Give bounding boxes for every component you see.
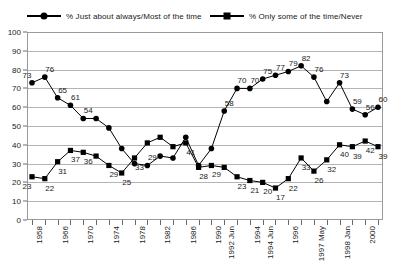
circle-marker-icon	[362, 112, 368, 118]
circle-marker-icon	[157, 153, 163, 159]
square-marker-icon	[350, 144, 355, 149]
x-axis-tick	[186, 220, 187, 225]
circle-marker-icon	[311, 74, 317, 80]
x-axis-tick	[250, 220, 251, 225]
x-axis-tick	[340, 220, 341, 225]
chart-legend: % Just about always/Most of the time % O…	[0, 8, 395, 24]
x-axis-tick-label: 1982	[163, 226, 172, 244]
y-axis-tick-label: 60	[12, 103, 21, 112]
square-marker-icon	[247, 178, 252, 183]
x-axis-tick-label: 1966	[61, 226, 70, 244]
square-marker-icon	[299, 155, 304, 160]
y-axis-tick-label: 100	[8, 28, 21, 37]
x-axis-tick	[365, 220, 366, 225]
square-marker-icon	[170, 144, 175, 149]
x-axis-tick	[83, 220, 84, 225]
square-marker-icon	[93, 153, 98, 158]
x-axis-labels: 195819661970197419781982198619901992 Jun…	[27, 226, 383, 280]
chart-root: % Just about always/Most of the time % O…	[0, 0, 395, 280]
square-marker-icon	[196, 165, 201, 170]
circle-marker-icon	[285, 69, 291, 75]
x-axis-tick-label: 1996	[291, 226, 300, 244]
x-axis-tick	[160, 220, 161, 225]
square-marker-icon	[209, 163, 214, 168]
x-axis-tick	[224, 220, 225, 225]
series-line	[32, 137, 378, 188]
circle-marker-icon	[170, 155, 176, 161]
x-axis-tick	[173, 220, 174, 225]
legend-entry-always: % Just about always/Most of the time	[27, 8, 202, 24]
circle-marker-icon	[106, 125, 112, 131]
circle-marker-icon	[41, 13, 48, 20]
circle-marker-icon	[132, 161, 138, 167]
circle-marker-icon	[350, 106, 356, 112]
circle-marker-icon	[42, 74, 48, 80]
square-marker-icon	[337, 142, 342, 147]
square-marker-icon	[106, 163, 111, 168]
x-axis-tick	[263, 220, 264, 225]
square-marker-icon	[158, 135, 163, 140]
x-axis-tick-label: 1992 Jun	[227, 226, 236, 259]
circle-marker-icon	[145, 163, 151, 169]
square-marker-icon	[183, 140, 188, 145]
x-axis-tick-label: 1974	[112, 226, 121, 244]
circle-marker-icon	[247, 86, 253, 92]
square-marker-icon	[260, 180, 265, 185]
x-axis-tick-label: 2000	[368, 226, 377, 244]
x-axis-tick	[147, 220, 148, 225]
x-axis-tick	[314, 220, 315, 225]
y-axis-tick-label: 20	[12, 178, 21, 187]
x-axis-tick-label: 1994	[253, 226, 262, 244]
x-axis-tick-label: 1958	[35, 226, 44, 244]
legend-label: % Just about always/Most of the time	[66, 12, 202, 21]
circle-marker-icon	[324, 99, 330, 105]
x-axis-tick-label: 1990	[214, 226, 223, 244]
square-marker-icon	[363, 138, 368, 143]
x-axis-tick	[301, 220, 302, 225]
square-marker-icon	[42, 176, 47, 181]
y-axis-tick-label: 40	[12, 140, 21, 149]
square-marker-icon	[273, 185, 278, 190]
x-axis-tick	[45, 220, 46, 225]
x-axis-tick	[122, 220, 123, 225]
legend-entry-sometimes: % Only some of the time/Never	[210, 8, 363, 24]
square-marker-icon	[119, 170, 124, 175]
y-axis-tick-label: 70	[12, 84, 21, 93]
square-marker-icon	[224, 13, 231, 20]
x-axis-tick-label: 1998 Jan	[343, 226, 352, 259]
circle-marker-icon	[375, 104, 381, 110]
x-axis-tick	[237, 220, 238, 225]
y-axis-tick-label: 90	[12, 46, 21, 55]
square-marker-icon	[81, 150, 86, 155]
x-axis-tick-label: 1986	[189, 226, 198, 244]
x-axis-tick	[199, 220, 200, 225]
x-axis-tick	[352, 220, 353, 225]
circle-marker-icon	[209, 146, 215, 152]
y-axis-tick-label: 50	[12, 122, 21, 131]
square-marker-icon	[375, 144, 380, 149]
square-marker-icon	[145, 140, 150, 145]
y-axis-tick-label: 10	[12, 197, 21, 206]
x-axis-tick	[96, 220, 97, 225]
circle-marker-icon	[93, 116, 99, 122]
square-marker-icon	[234, 174, 239, 179]
x-axis-tick	[327, 220, 328, 225]
square-marker-icon	[29, 174, 34, 179]
y-axis-labels: 0102030405060708090100	[0, 32, 25, 220]
x-axis-tick	[275, 220, 276, 225]
x-axis-tick	[378, 220, 379, 225]
x-axis-tick	[58, 220, 59, 225]
x-axis-tick	[288, 220, 289, 225]
circle-marker-icon	[234, 86, 240, 92]
square-marker-icon	[55, 159, 60, 164]
x-axis-tick-label: 1970	[86, 226, 95, 244]
x-axis-tick	[109, 220, 110, 225]
square-marker-icon	[324, 157, 329, 162]
circle-marker-icon	[221, 108, 227, 114]
x-axis-tick-label: 1997 May	[317, 226, 326, 261]
circle-marker-icon	[273, 72, 279, 78]
circle-marker-icon	[119, 146, 125, 152]
circle-marker-icon	[55, 95, 61, 101]
legend-line	[210, 15, 244, 17]
y-axis-tick-label: 0	[17, 216, 21, 225]
